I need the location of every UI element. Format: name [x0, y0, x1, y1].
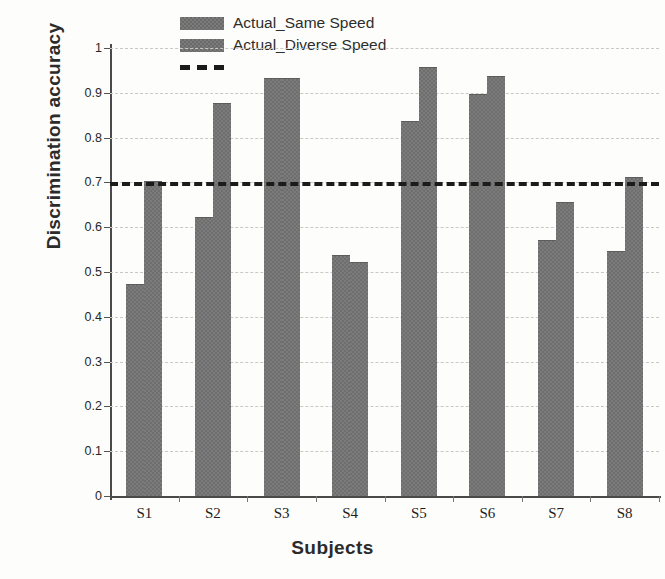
bar: [401, 121, 419, 496]
gridline: [110, 451, 659, 452]
bar: [264, 78, 282, 496]
gridline: [110, 227, 659, 228]
x-axis-tick-mark: [316, 496, 317, 502]
y-axis-tick-label: 0.2: [64, 399, 102, 413]
x-axis-tick-mark: [453, 496, 454, 502]
bar: [556, 202, 574, 496]
x-axis-tick-label: S4: [320, 505, 380, 522]
bar: [282, 78, 300, 496]
y-axis-tick-mark: [104, 496, 110, 497]
bar: [469, 94, 487, 496]
y-axis-tick-label: 0.8: [64, 131, 102, 145]
x-axis-tick-mark: [590, 496, 591, 502]
x-axis-tick-label: S2: [183, 505, 243, 522]
y-axis-title: Discrimination accuracy: [43, 0, 65, 286]
y-axis-tick-mark: [104, 227, 110, 228]
gridline: [110, 406, 659, 407]
x-axis-tick-mark: [385, 496, 386, 502]
x-axis-tick-mark: [659, 496, 660, 502]
x-axis-tick-label: S1: [114, 505, 174, 522]
bar: [126, 284, 144, 496]
x-axis-tick-label: S3: [252, 505, 312, 522]
x-axis-tick-mark: [179, 496, 180, 502]
bar: [195, 217, 213, 496]
bar: [419, 67, 437, 496]
bar: [607, 251, 625, 496]
gridline: [110, 48, 659, 49]
x-axis-line: [110, 496, 661, 498]
bar-chart: Discrimination accuracy Actual_Same Spee…: [0, 0, 665, 579]
gridline: [110, 317, 659, 318]
bar: [487, 76, 505, 496]
bar: [538, 240, 556, 496]
gridlines: 00.10.20.30.40.50.60.70.80.91: [110, 48, 659, 496]
x-axis-tick-label: S5: [389, 505, 449, 522]
y-axis-tick-label: 0.5: [64, 265, 102, 279]
legend-swatch-icon: [180, 17, 224, 30]
y-axis-tick-label: 0.3: [64, 355, 102, 369]
bar: [332, 255, 350, 496]
y-axis-tick-mark: [104, 138, 110, 139]
x-axis-tick-label: S7: [526, 505, 586, 522]
plot-area: 00.10.20.30.40.50.60.70.80.91: [110, 48, 659, 496]
gridline: [110, 93, 659, 94]
legend-label: Actual_Same Speed: [233, 14, 374, 32]
y-axis-tick-label: 0.6: [64, 220, 102, 234]
x-axis-tick-label: S8: [595, 505, 655, 522]
y-axis-tick-label: 0.7: [64, 175, 102, 189]
y-axis-tick-label: 0: [64, 489, 102, 503]
gridline: [110, 138, 659, 139]
y-axis-tick-mark: [104, 272, 110, 273]
y-axis-tick-mark: [104, 317, 110, 318]
y-axis-tick-label: 0.9: [64, 86, 102, 100]
x-axis-tick-label: S6: [457, 505, 517, 522]
bar: [625, 177, 643, 496]
y-axis-tick-mark: [104, 48, 110, 49]
gridline: [110, 272, 659, 273]
y-axis-tick-label: 0.4: [64, 310, 102, 324]
y-axis-tick-mark: [104, 451, 110, 452]
bar: [350, 262, 368, 496]
y-axis-tick-label: 1: [64, 41, 102, 55]
y-axis-tick-label: 0.1: [64, 444, 102, 458]
y-axis-tick-mark: [104, 362, 110, 363]
bar: [144, 181, 162, 496]
bar: [213, 103, 231, 496]
x-axis-tick-mark: [247, 496, 248, 502]
x-axis-title: Subjects: [0, 537, 665, 559]
x-axis-tick-mark: [522, 496, 523, 502]
threshold-line-rule: [110, 182, 659, 186]
legend-item-actual-same-speed: Actual_Same Speed: [180, 12, 480, 34]
y-axis-tick-mark: [104, 406, 110, 407]
gridline: [110, 362, 659, 363]
y-axis-tick-mark: [104, 93, 110, 94]
